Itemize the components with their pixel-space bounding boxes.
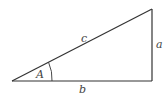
triangle-diagram: c a b A — [0, 0, 166, 96]
label-a: a — [156, 38, 163, 51]
label-angle-a: A — [35, 68, 44, 81]
label-c: c — [81, 32, 87, 45]
angle-arc — [49, 62, 52, 81]
side-c — [12, 9, 152, 81]
label-b: b — [79, 83, 86, 96]
